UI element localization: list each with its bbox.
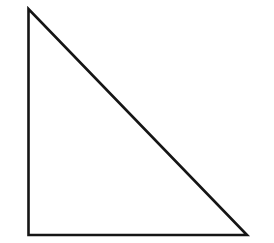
diagram-canvas (0, 0, 274, 243)
right-triangle-figure (0, 0, 274, 243)
right-triangle (29, 9, 248, 235)
